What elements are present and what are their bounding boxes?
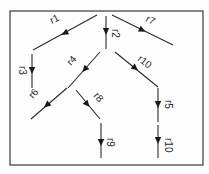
edge-r1: r1 (33, 12, 97, 50)
edge-r4: r4 (64, 52, 100, 88)
arrowhead-icon (60, 29, 69, 38)
arrowhead-icon (103, 28, 109, 35)
edges-group: r1r2r7r3r4r10r6r8r9r5r10 (17, 12, 174, 158)
edge-r2: r2 (103, 16, 121, 49)
edge-label: r8 (91, 90, 105, 104)
arrowhead-icon (155, 137, 161, 144)
edge-r10a: r10 (115, 52, 158, 87)
arrowhead-icon (29, 67, 35, 74)
edge-label: r9 (105, 138, 116, 147)
edge-r3: r3 (17, 54, 35, 88)
edge-label: r3 (17, 66, 28, 75)
arrowhead-icon (155, 101, 161, 108)
edge-r6: r6 (26, 86, 67, 119)
edge-label: r7 (144, 13, 157, 27)
edge-label: r1 (48, 12, 61, 26)
edge-r9: r9 (98, 123, 116, 158)
edge-r8: r8 (76, 90, 106, 119)
edge-label: r10 (136, 53, 155, 71)
edge-label: r6 (26, 86, 40, 100)
edge-r10b: r10 (155, 125, 174, 158)
edge-label: r5 (163, 100, 174, 109)
diagram-canvas: r1r2r7r3r4r10r6r8r9r5r10 (0, 0, 209, 174)
edge-label: r10 (163, 138, 174, 153)
edge-label: r4 (64, 53, 78, 67)
arrowhead-icon (138, 26, 147, 35)
arrowhead-icon (98, 139, 104, 146)
edge-label: r2 (110, 29, 121, 38)
edge-r5: r5 (155, 88, 174, 122)
tree-diagram: r1r2r7r3r4r10r6r8r9r5r10 (0, 0, 209, 174)
